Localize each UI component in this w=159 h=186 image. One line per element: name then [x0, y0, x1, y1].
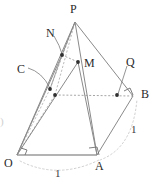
- point-M: [76, 60, 80, 64]
- point-Q: [115, 93, 119, 97]
- vertex-label-Q: Q: [126, 56, 135, 68]
- leader-line-C: [28, 68, 50, 88]
- vertex-label-A: A: [95, 160, 104, 172]
- figure-canvas: [0, 0, 159, 186]
- vertex-label-C: C: [17, 63, 25, 75]
- edge-NP: [62, 22, 75, 55]
- dashed-CxP: [55, 22, 75, 95]
- edge-AB: [97, 96, 133, 155]
- dashed-NM: [62, 55, 78, 62]
- edge-artifact-glyph: ): [0, 116, 4, 127]
- length-label-AB: 1: [131, 124, 137, 135]
- solid-edge-group: [17, 22, 133, 155]
- edge-MA: [78, 62, 97, 155]
- vertex-label-P: P: [70, 3, 77, 15]
- right-angle-O: [21, 148, 27, 155]
- point-C: [48, 87, 52, 91]
- point-Cx: [53, 93, 57, 97]
- vertex-label-O: O: [4, 157, 13, 169]
- right-angle-group: [21, 88, 133, 155]
- point-N: [60, 53, 64, 57]
- vertex-label-B: B: [141, 88, 149, 100]
- dashed-CB: [55, 95, 133, 96]
- vertex-label-M: M: [84, 57, 95, 69]
- edge-OM: [17, 62, 78, 155]
- edge-C-to-N: [50, 55, 62, 89]
- leader-line-N: [54, 36, 62, 54]
- length-label-OA: 1: [55, 168, 61, 179]
- geometry-figure: P O A B C M N Q 1 1 ): [0, 0, 159, 186]
- vertex-label-N: N: [46, 27, 55, 39]
- leader-line-group: [28, 36, 127, 94]
- edge-AP: [75, 22, 97, 155]
- dashed-edge-group: [17, 22, 133, 155]
